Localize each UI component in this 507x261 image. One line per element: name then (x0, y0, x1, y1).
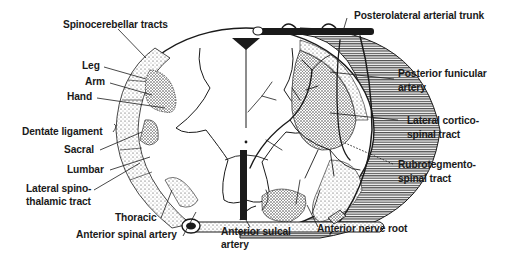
label-anterior-nerve-root: Anterior nerve root (317, 222, 407, 235)
label-anterior-spinal-artery: Anterior spinal artery (76, 228, 177, 241)
label-hand: Hand (67, 90, 92, 103)
label-lateral-corticospinal-line1: Lateral cortico- (407, 114, 479, 127)
label-anterior-sulcal-artery-line1: Anterior sulcal (221, 225, 291, 238)
label-posterior-funicular-artery-line2: artery (398, 81, 426, 94)
posterolateral-arterial-trunk (253, 24, 374, 35)
spinal-cord-diagram: Spinocerebellar tracts Leg Arm Hand Dent… (0, 0, 507, 261)
label-leg: Leg (82, 59, 100, 72)
label-lateral-corticospinal-line2: spinal tract (407, 128, 460, 141)
label-posterior-funicular-artery-line1: Posterior funicular (398, 67, 487, 80)
label-anterior-sulcal-artery-line2: artery (221, 238, 249, 251)
label-lateral-spinothalamic-line2: thalamic tract (26, 195, 91, 208)
label-posterolateral-arterial-trunk: Posterolateral arterial trunk (354, 9, 484, 22)
label-lateral-spinothalamic-line1: Lateral spino- (26, 182, 91, 195)
label-thoracic: Thoracic (115, 211, 157, 224)
label-dentate-ligament: Dentate ligament (22, 125, 102, 138)
label-sacral: Sacral (64, 143, 94, 156)
label-spinocerebellar-tracts: Spinocerebellar tracts (63, 18, 168, 31)
label-rubrotegmentospinal-line1: Rubrotegmento- (398, 158, 476, 171)
label-lumbar: Lumbar (67, 163, 104, 176)
label-rubrotegmentospinal-line2: spinal tract (398, 172, 451, 185)
label-arm: Arm (85, 75, 105, 88)
